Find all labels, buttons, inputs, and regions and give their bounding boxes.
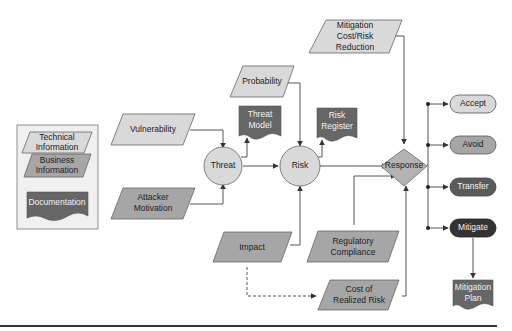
svg-text:Plan: Plan xyxy=(464,293,481,303)
outcome-avoid: Avoid xyxy=(450,136,496,154)
node-regulatory-compliance: Regulatory Compliance xyxy=(307,231,399,262)
svg-text:Register: Register xyxy=(321,121,353,131)
svg-text:Impact: Impact xyxy=(239,242,265,252)
svg-text:Vulnerability: Vulnerability xyxy=(130,124,177,134)
svg-text:Response: Response xyxy=(385,160,424,170)
svg-text:Probability: Probability xyxy=(242,76,282,86)
node-attacker-motivation: Attacker Motivation xyxy=(111,188,195,219)
node-impact: Impact xyxy=(213,232,292,262)
outcome-transfer: Transfer xyxy=(450,178,496,196)
node-mitigation-plan: Mitigation Plan xyxy=(453,280,493,309)
svg-text:Mitigation: Mitigation xyxy=(337,20,374,30)
legend: Technical Information Business Informati… xyxy=(17,125,98,229)
outcome-mitigate: Mitigate xyxy=(450,219,496,237)
svg-text:Reduction: Reduction xyxy=(336,42,375,52)
node-mitigation-cost: Mitigation Cost/Risk Reduction xyxy=(309,20,402,53)
svg-text:Cost of: Cost of xyxy=(346,284,374,294)
svg-text:Information: Information xyxy=(36,142,79,152)
outcome-accept: Accept xyxy=(450,95,496,113)
node-threat: Threat xyxy=(204,147,242,185)
svg-text:Motivation: Motivation xyxy=(134,203,173,213)
node-response: Response xyxy=(381,149,427,186)
risk-diagram: Technical Information Business Informati… xyxy=(0,0,512,331)
node-risk: Risk xyxy=(280,146,320,186)
legend-technical-information: Technical Information xyxy=(22,132,92,153)
svg-text:Mitigation: Mitigation xyxy=(455,282,492,292)
svg-text:Risk: Risk xyxy=(329,110,346,120)
svg-text:Cost/Risk: Cost/Risk xyxy=(337,31,374,41)
svg-text:Transfer: Transfer xyxy=(457,181,489,191)
svg-text:Compliance: Compliance xyxy=(331,247,376,257)
node-vulnerability: Vulnerability xyxy=(111,114,195,145)
svg-text:Technical: Technical xyxy=(39,132,75,142)
node-probability: Probability xyxy=(230,66,294,97)
svg-text:Threat: Threat xyxy=(211,160,236,170)
svg-text:Threat: Threat xyxy=(248,109,273,119)
svg-text:Regulatory: Regulatory xyxy=(332,236,374,246)
svg-text:Risk: Risk xyxy=(292,160,309,170)
node-threat-model: Threat Model xyxy=(239,106,281,139)
svg-text:Mitigate: Mitigate xyxy=(458,222,488,232)
legend-business-information: Business Information xyxy=(24,154,91,177)
svg-text:Avoid: Avoid xyxy=(462,139,483,149)
svg-text:Documentation: Documentation xyxy=(28,197,85,207)
svg-text:Business: Business xyxy=(40,155,75,165)
svg-text:Information: Information xyxy=(36,165,79,175)
svg-text:Model: Model xyxy=(248,120,271,130)
svg-text:Realized Risk: Realized Risk xyxy=(333,295,386,305)
node-cost-realized-risk: Cost of Realized Risk xyxy=(318,280,399,310)
svg-text:Accept: Accept xyxy=(460,98,487,108)
svg-text:Attacker: Attacker xyxy=(137,192,168,202)
node-risk-register: Risk Register xyxy=(317,108,357,141)
